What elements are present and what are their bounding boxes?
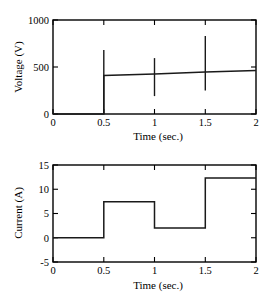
voltage-xtick-0_5: 0.5 <box>97 117 110 128</box>
current-ytick-0: 0 <box>44 233 49 244</box>
voltage-ytick-500: 500 <box>33 62 49 73</box>
current-ytick-10: 10 <box>39 184 50 195</box>
current-xtick-1: 1 <box>152 265 157 276</box>
voltage-xtick-0: 0 <box>50 117 55 128</box>
voltage-chart-panel: 0 500 1000 0 0.5 1 1.5 2 Time (sec.) Vol… <box>0 0 275 150</box>
voltage-y-ticklabels: 0 500 1000 <box>28 15 49 120</box>
voltage-y-axis-title: Voltage (V) <box>12 41 25 93</box>
current-x-ticklabels: 0 0.5 1 1.5 2 <box>50 265 258 276</box>
current-xtick-1_5: 1.5 <box>199 265 212 276</box>
voltage-ytick-0: 0 <box>44 109 49 120</box>
current-data-line <box>53 178 256 238</box>
voltage-xtick-2: 2 <box>253 117 258 128</box>
current-y-axis-title: Current (A) <box>12 187 25 239</box>
figure-container: 0 500 1000 0 0.5 1 1.5 2 Time (sec.) Vol… <box>0 0 275 300</box>
current-xtick-0_5: 0.5 <box>97 265 110 276</box>
voltage-ytick-1000: 1000 <box>28 15 49 26</box>
voltage-xtick-1: 1 <box>152 117 157 128</box>
current-ytick-15: 15 <box>39 160 50 171</box>
current-xtick-0: 0 <box>50 265 55 276</box>
current-x-axis-title: Time (sec.) <box>133 279 183 292</box>
voltage-plot: 0 500 1000 0 0.5 1 1.5 2 Time (sec.) Vol… <box>0 0 275 150</box>
current-xtick-2: 2 <box>253 265 258 276</box>
current-ytick-5: 5 <box>44 208 49 219</box>
current-y-ticklabels: -5 0 5 10 15 <box>39 160 50 268</box>
current-ytick-neg5: -5 <box>40 257 49 268</box>
voltage-xtick-1_5: 1.5 <box>199 117 212 128</box>
current-plot: -5 0 5 10 15 0 0.5 1 1.5 2 Time (sec.) C… <box>0 150 275 300</box>
voltage-x-ticklabels: 0 0.5 1 1.5 2 <box>50 117 258 128</box>
current-chart-panel: -5 0 5 10 15 0 0.5 1 1.5 2 Time (sec.) C… <box>0 150 275 300</box>
voltage-x-axis-title: Time (sec.) <box>133 130 183 143</box>
